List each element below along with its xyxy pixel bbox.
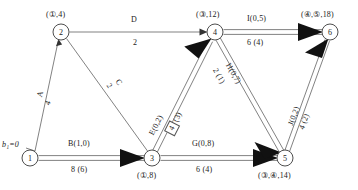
source-supply-label: b₁=0 bbox=[2, 141, 19, 149]
node-6-potential-label: (④,⑤,18) bbox=[301, 11, 334, 19]
node-1[interactable]: 1 bbox=[22, 150, 38, 166]
node-2-number: 2 bbox=[59, 28, 63, 37]
arrowhead-E bbox=[184, 39, 211, 59]
node-4-potential-label: (③,12) bbox=[196, 11, 220, 19]
edge-E bbox=[153, 39, 213, 153]
node-2-potential-label: (①,4) bbox=[46, 11, 65, 19]
edge-I-name-label: I(0,5) bbox=[247, 15, 266, 23]
edge-D-name-label: D bbox=[131, 16, 137, 24]
edge-J bbox=[285, 39, 330, 152]
edge-D bbox=[70, 29, 208, 36]
arrowhead-D bbox=[200, 29, 208, 36]
diagram-canvas: 1 2 3 4 5 6 (①,4) (③,12) (④,⑤,18) (①,8) … bbox=[0, 0, 358, 190]
edge-G-value-label: 6 (4) bbox=[196, 166, 212, 174]
source-supply-text: b₁=0 bbox=[2, 140, 19, 149]
node-5-potential-label: (③,④,14) bbox=[258, 172, 291, 180]
edge-C bbox=[67, 39, 148, 152]
edge-B-name-label: B(1,0) bbox=[68, 140, 90, 148]
node-2[interactable]: 2 bbox=[53, 24, 69, 40]
edge-B bbox=[39, 149, 146, 167]
edge-G-name-label: G(0,8) bbox=[192, 140, 214, 148]
arrowhead-B bbox=[120, 149, 145, 167]
edge-H bbox=[216, 38, 284, 159]
node-6[interactable]: 6 bbox=[322, 24, 338, 40]
arrowhead-J bbox=[305, 39, 329, 59]
node-4-number: 4 bbox=[213, 28, 217, 37]
node-3-potential-label: (①,8) bbox=[137, 172, 156, 180]
node-5-number: 5 bbox=[283, 154, 287, 163]
edge-B-value-label: 8 (6) bbox=[71, 166, 87, 174]
edge-I-value-label: 6 (4) bbox=[247, 39, 263, 47]
arrowhead-I bbox=[298, 23, 323, 41]
node-3[interactable]: 3 bbox=[144, 150, 160, 166]
node-3-number: 3 bbox=[150, 154, 154, 163]
edge-I bbox=[224, 23, 324, 41]
graph-svg: 1 2 3 4 5 6 bbox=[0, 0, 358, 190]
node-4[interactable]: 4 bbox=[207, 24, 223, 40]
edge-D-value-label: 2 bbox=[133, 39, 137, 47]
node-1-number: 1 bbox=[28, 154, 32, 163]
node-6-number: 6 bbox=[328, 28, 332, 37]
node-5[interactable]: 5 bbox=[277, 150, 293, 166]
